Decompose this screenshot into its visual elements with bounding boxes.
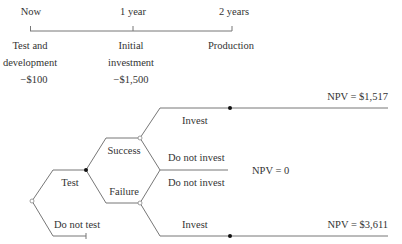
failure-decision-node [138, 201, 142, 205]
initial-investment-cost: −$1,500 [114, 74, 149, 86]
npv-top-label: NPV = $1,517 [327, 91, 388, 103]
npv-bottom-label: NPV = $3,611 [328, 219, 388, 231]
success-decision-node [138, 136, 142, 140]
success-do-not-invest-label: Do not invest [168, 152, 225, 164]
success-outcome-label: Success [107, 145, 140, 157]
failure-outcome-label: Failure [109, 186, 139, 198]
production-label: Production [208, 40, 254, 52]
do-not-test-branch-label: Do not test [54, 219, 100, 231]
failure-invest-label: Invest [182, 219, 208, 231]
timeline-axis [30, 26, 232, 31]
timeline-now-label: Now [21, 6, 41, 18]
test-chance-node [84, 168, 88, 172]
timeline-1-year-label: 1 year [120, 6, 146, 18]
success-invest-label: Invest [182, 115, 208, 127]
npv-middle-label: NPV = 0 [252, 165, 289, 177]
test-branch-label: Test [61, 177, 78, 189]
initial-investment-line2: investment [108, 57, 154, 69]
initial-investment-line1: Initial [118, 40, 143, 52]
failure-do-not-invest-label: Do not invest [168, 177, 225, 189]
test-development-line2: development [3, 57, 57, 69]
test-development-line1: Test and [12, 40, 47, 52]
test-development-cost: −$100 [21, 74, 48, 86]
top-invest-node [228, 106, 232, 110]
root-decision-node [30, 199, 34, 203]
timeline-2-years-label: 2 years [219, 6, 249, 18]
bottom-invest-node [228, 234, 232, 238]
